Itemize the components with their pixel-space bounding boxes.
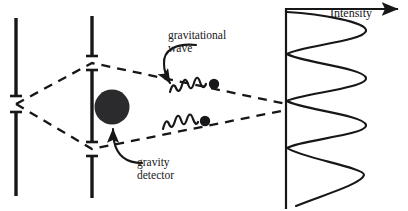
intensity-axis-label: Intensity: [330, 7, 372, 20]
gravitational-wave-packet-lower: [163, 115, 210, 130]
ray-paths-group: [16, 63, 286, 149]
wave-squiggle-lower: [163, 115, 198, 130]
gravitational-wave-packet-upper: [170, 78, 219, 92]
graviton-dot-lower: [200, 116, 210, 126]
gravity-detector-label-line1: gravity: [137, 156, 174, 169]
graviton-dot-upper: [209, 79, 219, 89]
interference-intensity-curve: [287, 12, 366, 206]
gravitational-wave-label: gravitational wave: [168, 29, 226, 55]
gravity-detector-mass: [95, 90, 130, 125]
ray-lower-path: [16, 104, 286, 149]
gravitational-wave-label-line2: wave: [168, 42, 226, 55]
detection-screen: [286, 8, 398, 209]
figure-canvas: gravitational wave gravity detector Inte…: [0, 0, 408, 211]
gravitational-wave-label-line1: gravitational: [168, 29, 226, 42]
ray-upper-path: [16, 63, 286, 104]
gravity-detector-label: gravity detector: [137, 156, 174, 182]
wave-squiggle-upper: [170, 78, 206, 92]
gravity-detector-label-line2: detector: [137, 169, 174, 182]
